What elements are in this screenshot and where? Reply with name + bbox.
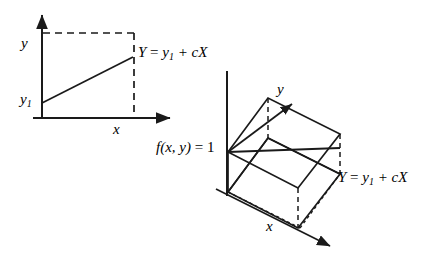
constraint-intersection-line (228, 148, 340, 152)
left-y-intercept-sub: 1 (27, 98, 32, 109)
figure-canvas (0, 0, 423, 258)
left-line-segment (42, 57, 133, 103)
right-plot-group (216, 71, 340, 246)
right-plane-equation-label: Y = y1 + cX (338, 170, 407, 187)
right-eq-rhs-base: y (362, 169, 369, 185)
plane-cross-edge-right (268, 138, 340, 174)
left-x-axis-label: x (113, 122, 120, 137)
right-x-axis-label: x (266, 219, 273, 234)
left-y-axis-label: y (21, 36, 28, 51)
left-eq-rhs-tail: + cX (178, 44, 208, 60)
constraint-args: (x, y) (160, 139, 191, 155)
left-plot-group (33, 15, 170, 119)
right-eq-rhs-tail: + cX (378, 169, 408, 185)
plane-cross-edge-left (228, 138, 268, 192)
left-eq-sign: = (150, 44, 158, 60)
right-eq-sign: = (350, 169, 358, 185)
left-y-intercept-base: y (20, 91, 27, 107)
left-eq-rhs-base: y (162, 44, 169, 60)
constraint-function-label: f(x, y) = 1 (156, 140, 214, 155)
right-x-axis (216, 189, 330, 246)
math-figure: y y1 x Y = y1 + cX y x f(x, y) = 1 Y = y… (0, 0, 423, 258)
right-y-axis-label: y (277, 82, 284, 97)
upper-plane (228, 98, 340, 188)
constraint-eq: = (195, 139, 203, 155)
constraint-value: 1 (207, 139, 215, 155)
left-line-equation-label: Y = y1 + cX (138, 45, 207, 62)
left-y-intercept-label: y1 (20, 92, 32, 109)
